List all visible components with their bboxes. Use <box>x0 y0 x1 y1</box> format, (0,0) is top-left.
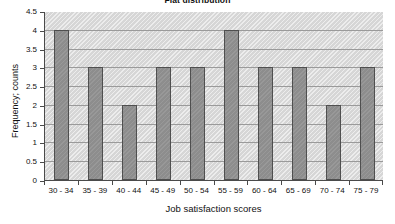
bar <box>224 30 239 180</box>
bar-chart: Flat distribution Frequency; counts 00.5… <box>0 0 395 224</box>
x-tick-mark <box>349 181 350 185</box>
x-tick-label: 50 - 54 <box>184 186 209 196</box>
x-axis-title: Job satisfaction scores <box>44 203 383 214</box>
bar <box>88 67 103 180</box>
x-tick-mark <box>315 181 316 185</box>
x-tick-mark <box>146 181 147 185</box>
y-tick-label: 0 <box>33 177 37 185</box>
bar <box>156 67 171 180</box>
x-tick-label: 30 - 34 <box>48 186 73 196</box>
x-tick-label: 40 - 44 <box>116 186 141 196</box>
x-tick-mark <box>247 181 248 185</box>
y-tick-label: 2 <box>33 102 37 110</box>
chart-title: Flat distribution <box>0 0 395 6</box>
x-tick-mark <box>44 181 45 185</box>
bar <box>258 67 273 180</box>
y-tick-label: 2.5 <box>26 83 37 91</box>
x-tick-mark <box>180 181 181 185</box>
x-tick-mark <box>382 181 383 185</box>
plot-area <box>44 12 383 181</box>
y-tick-label: 4 <box>33 27 37 35</box>
y-tick-label: 3.5 <box>26 46 37 54</box>
bar <box>292 67 307 180</box>
y-tick-label: 0.5 <box>26 158 37 166</box>
bar <box>326 105 341 180</box>
y-tick-label: 4.5 <box>26 8 37 16</box>
x-tick-label: 65 - 69 <box>286 186 311 196</box>
x-tick-label: 60 - 64 <box>252 186 277 196</box>
bars-layer <box>45 12 383 180</box>
x-tick-label: 70 - 74 <box>320 186 345 196</box>
x-axis-tick-labels: 30 - 3435 - 3940 - 4445 - 4950 - 5455 - … <box>44 186 383 200</box>
y-tick-label: 1 <box>33 139 37 147</box>
x-tick-mark <box>214 181 215 185</box>
x-tick-mark <box>78 181 79 185</box>
x-tick-label: 45 - 49 <box>150 186 175 196</box>
y-tick-label: 1.5 <box>26 121 37 129</box>
y-tick-label: 3 <box>33 64 37 72</box>
bar <box>54 30 69 180</box>
bar <box>122 105 137 180</box>
x-tick-mark <box>112 181 113 185</box>
x-tick-mark <box>281 181 282 185</box>
x-tick-label: 55 - 59 <box>218 186 243 196</box>
bar <box>360 67 375 180</box>
x-tick-label: 35 - 39 <box>82 186 107 196</box>
y-axis-ticks: 00.511.522.533.544.5 <box>0 12 44 182</box>
bar <box>190 67 205 180</box>
x-tick-label: 75 - 79 <box>354 186 379 196</box>
